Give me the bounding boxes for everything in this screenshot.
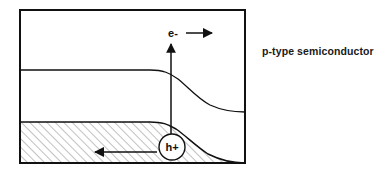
conduction-band-edge-curve (20, 70, 245, 112)
band-diagram-figure: e- h+ (0, 0, 384, 175)
material-type-label: p-type semiconductor (262, 45, 374, 57)
hole-label: h+ (165, 141, 178, 153)
hatch-fill (20, 120, 246, 165)
electron-label: e- (168, 27, 178, 39)
valence-band-hatched-region (20, 120, 246, 165)
